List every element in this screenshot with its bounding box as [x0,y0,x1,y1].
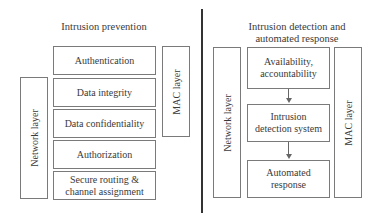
right-network-layer-label: Network layer [222,94,233,151]
left-network-layer-label: Network layer [29,109,40,166]
availability-label-line2: accountability [260,68,317,80]
authentication-label: Authentication [75,55,134,67]
left-mac-layer: MAC layer [162,46,190,137]
availability-label-line1: Availability, [264,56,313,68]
authentication-box: Authentication [53,46,156,75]
intrusion-detection-title: Intrusion detection and automated respon… [232,21,362,45]
availability-box: Availability, accountability [247,47,330,89]
automated-response-label-line2: response [271,179,306,191]
ids-label-line1: Intrusion [270,111,306,123]
intrusion-detection-title-line1: Intrusion detection and [232,21,362,33]
secure-routing-label: Secure routing & channel assignment [58,174,151,198]
right-mac-layer: MAC layer [334,47,362,198]
data-confidentiality-box: Data confidentiality [53,109,156,138]
data-confidentiality-label: Data confidentiality [65,118,145,130]
authorization-box: Authorization [53,140,156,169]
arrow-2-head [286,154,292,159]
intrusion-detection-title-line2: automated response [232,33,362,45]
automated-response-label-line1: Automated [266,167,310,179]
authorization-label: Authorization [77,149,133,161]
left-network-layer: Network layer [20,77,48,199]
right-mac-layer-label: MAC layer [343,100,354,145]
panel-divider [201,9,203,213]
data-integrity-box: Data integrity [53,78,156,107]
secure-routing-box: Secure routing & channel assignment [53,171,156,200]
data-integrity-label: Data integrity [77,87,132,99]
automated-response-box: Automated response [247,160,330,198]
arrow-1-head [286,98,292,103]
left-mac-layer-label: MAC layer [171,69,182,114]
right-network-layer: Network layer [213,47,241,198]
ids-box: Intrusion detection system [247,104,330,142]
ids-label-line2: detection system [255,123,322,135]
intrusion-prevention-title: Intrusion prevention [53,21,155,33]
